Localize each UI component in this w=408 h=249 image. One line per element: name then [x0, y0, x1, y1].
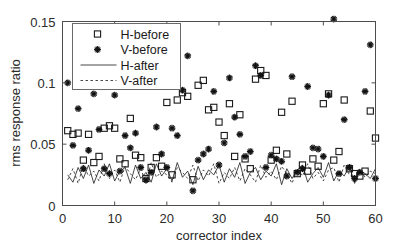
data-marker-star: [210, 88, 217, 95]
data-marker-star: [247, 148, 254, 155]
x-tick-label: 30: [212, 211, 226, 226]
data-marker-star: [116, 168, 123, 175]
data-marker-square: [273, 147, 279, 153]
chart-figure: 010203040506000.050.10.15 corrector inde…: [0, 0, 408, 249]
data-marker-square: [216, 119, 222, 125]
legend-label: H-before: [121, 28, 170, 42]
data-marker-star: [80, 165, 87, 172]
data-marker-star: [85, 147, 92, 154]
data-marker-star: [195, 157, 202, 164]
data-marker-star: [111, 92, 118, 99]
data-marker-star: [205, 146, 212, 153]
y-tick-label: 0.15: [30, 15, 55, 30]
data-marker-square: [367, 108, 373, 114]
y-tick-label: 0.1: [37, 76, 55, 91]
data-marker-star: [190, 187, 197, 194]
data-marker-square: [80, 157, 86, 163]
data-marker-square: [336, 148, 342, 154]
data-marker-square: [232, 153, 238, 159]
data-marker-star: [174, 132, 181, 139]
data-marker-star: [226, 75, 233, 82]
data-marker-square: [331, 157, 337, 163]
data-marker-star: [90, 90, 97, 97]
data-marker-star: [200, 151, 207, 158]
data-marker-square: [284, 151, 290, 157]
data-marker-star: [367, 41, 374, 48]
data-marker-star: [169, 125, 176, 132]
x-tick-label: 50: [316, 211, 330, 226]
data-marker-square: [315, 163, 321, 169]
data-marker-square: [221, 132, 227, 138]
data-marker-square: [96, 153, 102, 159]
y-axis-label: rms response ratio: [8, 59, 23, 167]
data-marker-square: [91, 159, 97, 165]
x-tick-label: 10: [107, 211, 121, 226]
data-marker-star: [341, 116, 348, 123]
data-marker-star: [236, 131, 243, 138]
rms-response-ratio-scatter-plot: 010203040506000.050.10.15 corrector inde…: [0, 0, 408, 249]
y-tick-label: 0: [48, 199, 55, 214]
series-line-h-after: [68, 163, 376, 185]
y-tick-label: 0.05: [30, 137, 55, 152]
data-marker-star: [132, 130, 139, 137]
data-marker-star: [75, 105, 82, 112]
legend-label: V-after: [121, 74, 158, 88]
data-marker-star: [184, 52, 191, 59]
x-axis-label: corrector index: [176, 228, 262, 243]
data-marker-square: [174, 97, 180, 103]
data-marker-star: [362, 88, 369, 95]
data-marker-square: [85, 131, 91, 137]
data-marker-star: [216, 162, 223, 169]
data-marker-square: [289, 98, 295, 104]
data-marker-square: [279, 109, 285, 115]
data-marker-star: [221, 140, 228, 147]
legend-label: H-after: [121, 59, 159, 73]
legend-label: V-before: [121, 43, 168, 57]
x-tick-label: 40: [264, 211, 278, 226]
legend: H-beforeV-beforeH-afterV-after: [73, 24, 181, 90]
data-marker-square: [164, 99, 170, 105]
data-marker-star: [137, 164, 144, 171]
data-marker-square: [310, 156, 316, 162]
data-marker-star: [122, 132, 129, 139]
data-marker-star: [304, 83, 311, 90]
data-marker-star: [263, 164, 270, 171]
data-marker-square: [127, 115, 133, 121]
data-marker-square: [341, 97, 347, 103]
data-marker-star: [153, 124, 160, 131]
data-marker-star: [70, 142, 77, 149]
x-tick-label: 60: [368, 211, 382, 226]
x-tick-label: 0: [59, 211, 66, 226]
data-marker-star: [127, 144, 134, 151]
data-marker-square: [226, 101, 232, 107]
x-tick-label: 20: [160, 211, 174, 226]
data-marker-star: [242, 153, 249, 160]
data-marker-star: [289, 73, 296, 80]
data-marker-star: [320, 153, 327, 160]
data-marker-square: [320, 101, 326, 107]
